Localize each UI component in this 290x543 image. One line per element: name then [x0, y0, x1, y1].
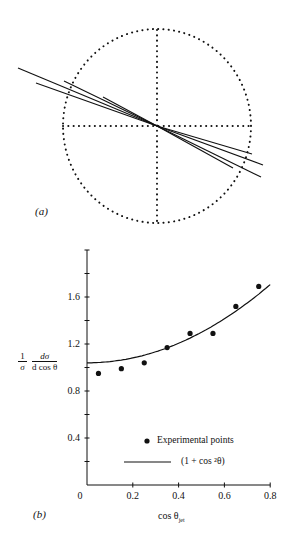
x-tick-label: 0.4 — [167, 491, 191, 501]
y-tick-label: 1.6 — [60, 292, 80, 302]
data-point — [233, 304, 238, 309]
data-point — [210, 331, 215, 336]
ylabel-frac2-num: dσ — [32, 351, 57, 362]
xlabel-sub: jet — [179, 517, 185, 523]
x-tick-label: 0 — [68, 491, 92, 501]
xlabel-main: cos θ — [158, 510, 179, 521]
panel-b-chart — [0, 0, 290, 543]
ylabel-frac2-den: d cos θ — [32, 362, 57, 372]
ylabel-frac1-den: σ — [18, 362, 27, 372]
x-axis-label: cos θjet — [158, 511, 185, 523]
data-point — [142, 360, 147, 365]
chart-axes — [85, 250, 271, 488]
x-tick-label: 0.6 — [212, 491, 236, 501]
legend-point-marker — [144, 438, 149, 443]
panel-b-label: (b) — [33, 509, 46, 520]
theory-curve — [87, 285, 270, 363]
y-tick-label: 0.4 — [60, 433, 80, 443]
data-point — [119, 366, 124, 371]
y-tick-label: 1.2 — [60, 339, 80, 349]
data-point — [187, 331, 192, 336]
data-point — [165, 345, 170, 350]
x-tick-label: 0.2 — [121, 491, 145, 501]
legend-points-label: Experimental points — [157, 436, 234, 446]
experimental-points — [96, 284, 262, 376]
legend-line-label: (1 + cos ²θ) — [181, 457, 225, 467]
y-tick-label: 0.8 — [60, 386, 80, 396]
x-tick-label: 0.8 — [258, 491, 282, 501]
ylabel-frac1-num: 1 — [18, 351, 27, 362]
data-point — [256, 284, 261, 289]
data-point — [96, 371, 101, 376]
